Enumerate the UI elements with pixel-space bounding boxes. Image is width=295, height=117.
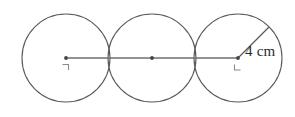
- circle-diagram-figure: 4 cm: [0, 0, 295, 117]
- right-center-label-mark: [235, 65, 241, 71]
- middle-center-point: [150, 56, 154, 60]
- left-center-point: [64, 56, 68, 60]
- radius-measurement-label: 4 cm: [245, 44, 275, 59]
- right-center-point: [236, 56, 240, 60]
- left-center-label-mark: [63, 65, 69, 71]
